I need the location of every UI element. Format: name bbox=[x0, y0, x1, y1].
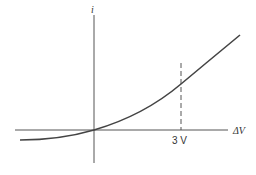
marker-label: 3 V bbox=[172, 135, 187, 146]
chart: i ΔV 3 V bbox=[0, 0, 256, 175]
iv-curve bbox=[20, 35, 240, 140]
y-axis-label: i bbox=[91, 4, 94, 15]
x-axis-label: ΔV bbox=[232, 125, 247, 136]
